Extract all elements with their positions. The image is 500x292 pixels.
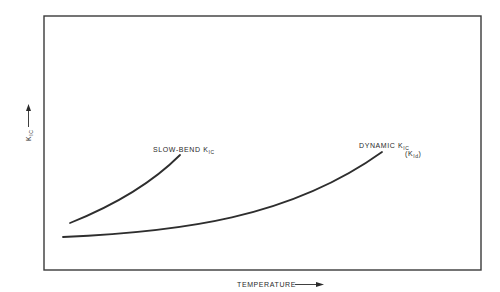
y-axis-arrow-up-icon <box>26 104 31 111</box>
dynamic-kic-label: DYNAMIC KIC <box>359 142 410 151</box>
x-axis-arrow-right-icon <box>316 282 324 287</box>
slow-bend-kic-curve <box>70 155 180 223</box>
y-axis-label: KIC <box>25 130 34 141</box>
y-axis-label-group: KIC <box>25 104 34 141</box>
x-axis-label-group: TEMPERATURE <box>237 281 324 288</box>
slow-bend-label: SLOW-BEND KIC <box>153 146 215 155</box>
dynamic-kic-curve <box>63 152 382 237</box>
plot-frame <box>44 16 481 270</box>
chart-figure: SLOW-BEND KIC DYNAMIC KIC (KId) KIC TEMP… <box>0 0 500 292</box>
x-axis-label: TEMPERATURE <box>237 281 296 288</box>
kid-label: (KId) <box>405 150 422 159</box>
